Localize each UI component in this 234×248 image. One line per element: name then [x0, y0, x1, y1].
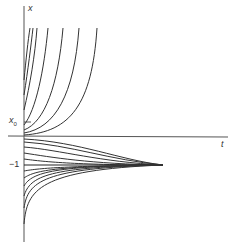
minus-one-label: −1: [9, 159, 19, 169]
t-axis-horizontal: [8, 136, 228, 137]
solution-curves-diagram: [0, 0, 234, 248]
converging-curves-below: [24, 165, 163, 224]
x0-subscript: 0: [14, 121, 17, 127]
blowup-curves: [24, 28, 97, 135]
x-axis-label: x: [28, 3, 33, 13]
x0-label: x0: [9, 115, 17, 127]
converging-curves-above: [24, 139, 163, 165]
t-axis-label: t: [221, 139, 224, 149]
